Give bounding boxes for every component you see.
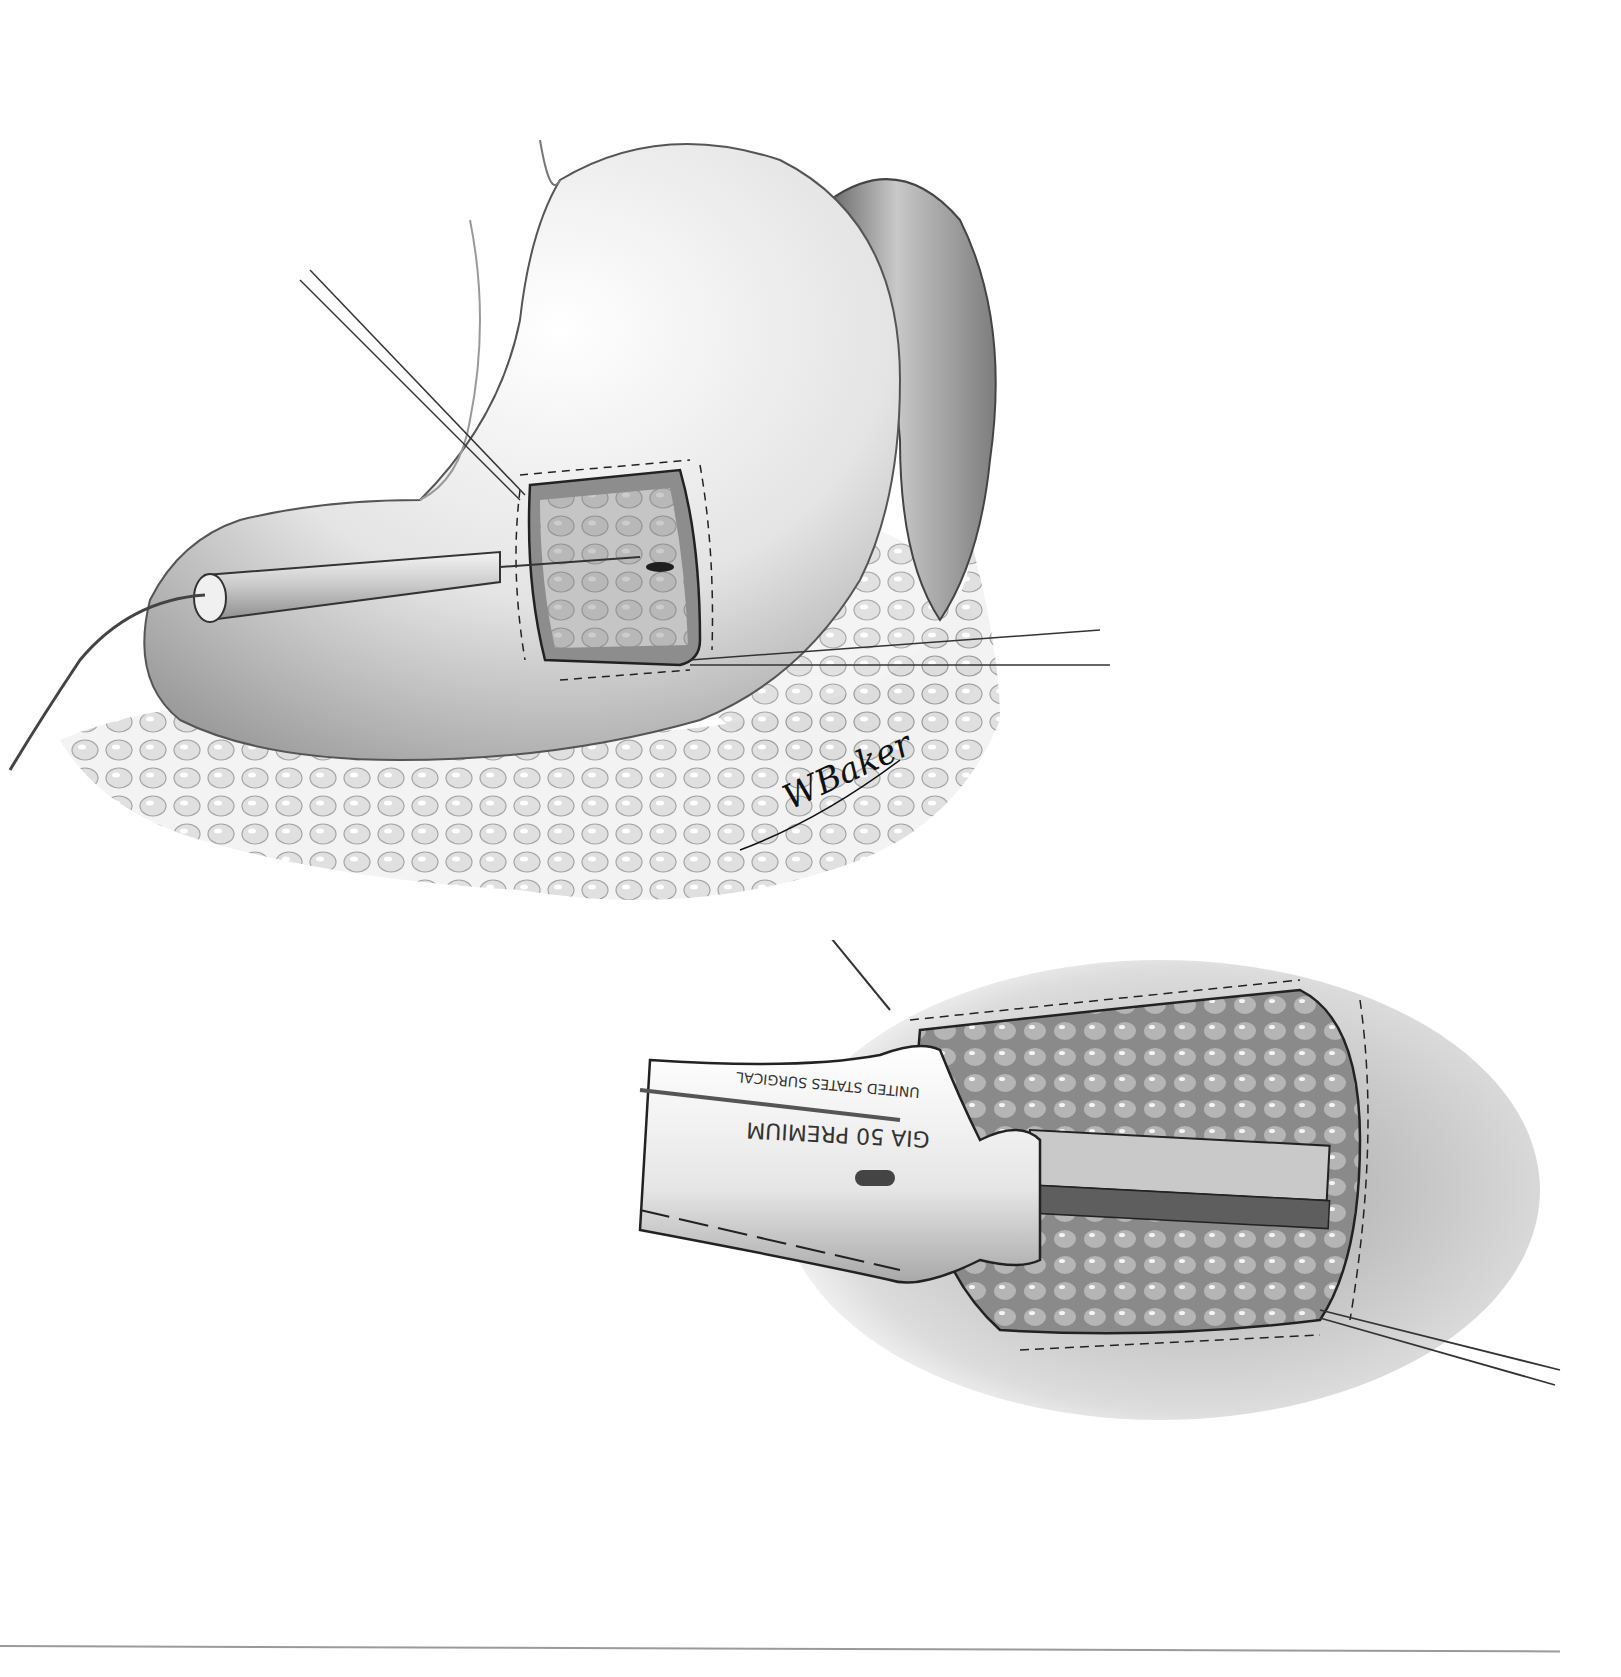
surgical-illustration: WBaker xyxy=(0,0,1621,1677)
stapler-cartridge xyxy=(1027,1130,1329,1229)
panel-stomach-gastrotomy: WBaker xyxy=(0,120,1120,920)
stomach-drawing: WBaker xyxy=(0,120,1120,920)
traction-suture-top xyxy=(800,940,890,1010)
panel-stapler-insertion: UNITED STATES SURGICAL GIA 50 PREMIUM xyxy=(600,940,1580,1460)
bottom-rule-divider xyxy=(0,1645,1560,1652)
stapler-drawing: UNITED STATES SURGICAL GIA 50 PREMIUM xyxy=(600,940,1580,1460)
stomach xyxy=(144,144,900,760)
